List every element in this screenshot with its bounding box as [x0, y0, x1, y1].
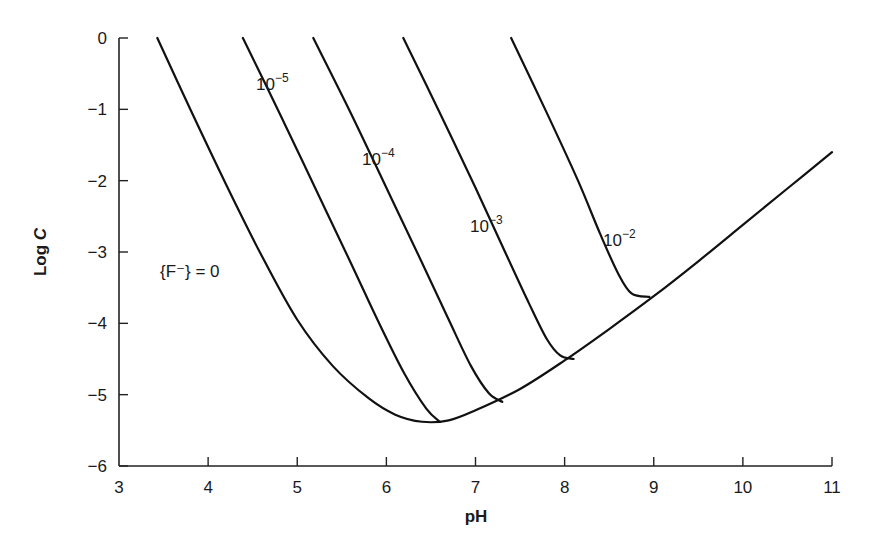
y-axis-title: Log C: [31, 227, 50, 276]
y-tick-label: 0: [98, 29, 107, 48]
y-tick-label: −3: [88, 243, 107, 262]
chart-canvas: 0−1−2−3−4−5−634567891011 {F⁻} = 010−510−…: [0, 0, 879, 551]
x-tick-label: 5: [293, 478, 302, 497]
x-tick-label: 10: [733, 478, 752, 497]
curve-label-1: 10−5: [256, 71, 289, 94]
y-tick-label: −4: [88, 314, 107, 333]
curve-label-f-zero: {F⁻} = 0: [160, 262, 220, 281]
x-tick-label: 9: [649, 478, 658, 497]
x-tick-label: 11: [823, 478, 841, 497]
curve-label-3: 10−3: [470, 213, 503, 236]
y-tick-label: −1: [88, 100, 107, 119]
curve-label-2: 10−4: [362, 146, 395, 169]
x-tick-label: 7: [471, 478, 480, 497]
curve-3: [403, 38, 573, 359]
y-tick-label: −5: [88, 386, 107, 405]
x-tick-label: 4: [203, 478, 212, 497]
x-tick-label: 3: [114, 478, 123, 497]
x-tick-label: 6: [382, 478, 391, 497]
y-tick-label: −2: [88, 172, 107, 191]
curve-4: [511, 38, 649, 297]
x-tick-label: 8: [560, 478, 569, 497]
curve-labels: {F⁻} = 010−510−410−310−2: [160, 71, 636, 281]
y-tick-label: −6: [88, 457, 107, 476]
x-axis-title: pH: [465, 507, 488, 526]
curve-label-4: 10−2: [603, 227, 636, 250]
curves: [157, 38, 832, 422]
